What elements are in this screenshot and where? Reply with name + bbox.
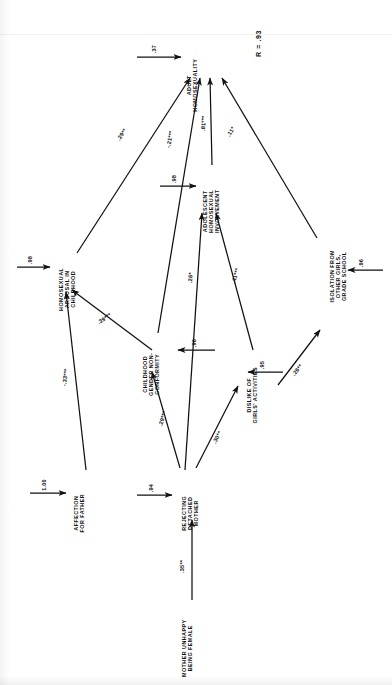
coef-label-nonconformity-to-arousal: .39*** <box>96 311 112 325</box>
coef-label-dislike-to-adolescent: .41*** <box>230 267 240 284</box>
node-affection-father[interactable]: AFFECTION FOR FATHER <box>62 470 96 556</box>
node-isolation[interactable]: ISOLATION FROM OTHER GIRLS, GRADE SCHOOL <box>316 228 360 324</box>
residual-label-adolescent-involvement: .98 <box>171 175 177 183</box>
path-dislike-to-isolation <box>278 330 320 385</box>
node-label-affection-father: AFFECTION FOR FATHER <box>73 494 85 533</box>
coef-label-father-to-arousal: -.33*** <box>61 368 69 386</box>
node-label-adolescent-involvement: ADOLESCENT HOMOSEXUAL INVOLVEMENT <box>203 189 222 232</box>
coef-label-motherunhappy-to-mother: .35** <box>179 560 185 573</box>
coef-label-mother-to-adolescent: .26* <box>187 272 194 283</box>
coef-label-dislike-to-isolation: .26** <box>291 363 304 377</box>
residual-label-affection-father: 1.00 <box>41 479 47 491</box>
node-label-adult-homosexuality: ADULT HOMOSEXUALITY <box>186 59 198 112</box>
node-label-rejecting-mother: REJECTING DETACHED MOTHER <box>181 496 200 531</box>
node-mother-unhappy[interactable]: MOTHER UNHAPPY BEING FEMALE <box>170 600 204 685</box>
node-label-homosexual-arousal: HOMOSEXUAL AROUSAL IN CHILDHOOD <box>59 267 78 310</box>
coef-label-adolescent-to-adult: .81*** <box>200 115 207 131</box>
node-rejecting-mother[interactable]: REJECTING DETACHED MOTHER <box>168 470 212 556</box>
node-label-mother-unhappy: MOTHER UNHAPPY BEING FEMALE <box>181 619 193 677</box>
residual-label-dislike-girls: .95 <box>259 361 265 369</box>
path-mother-to-dislike <box>196 386 238 468</box>
node-homosexual-arousal[interactable]: HOMOSEXUAL AROUSAL IN CHILDHOOD <box>46 243 90 335</box>
node-label-isolation: ISOLATION FROM OTHER GIRLS, GRADE SCHOOL <box>329 250 348 303</box>
node-label-gender-nonconformity: CHILDHOOD GENDER NON- CONFORMITY <box>143 352 162 395</box>
residual-label-isolation: .96 <box>358 259 364 267</box>
coef-label-mother-to-dislike: .30** <box>211 430 222 444</box>
coef-label-arousal-to-adult: .29** <box>115 127 127 141</box>
node-label-dislike-girls: DISLIKE OF GIRLS' ACTIVITIES <box>246 367 258 423</box>
residual-label-adult-homosexuality: .37 <box>151 45 157 53</box>
scan-edge-shading-left <box>0 0 10 685</box>
diagram-canvas: ADULT HOMOSEXUALITY ADOLESCENT HOMOSEXUA… <box>0 0 392 685</box>
residual-label-homosexual-arousal: .98 <box>27 256 33 264</box>
node-gender-nonconformity[interactable]: CHILDHOOD GENDER NON- CONFORMITY <box>130 330 174 418</box>
path-isolation-to-adult <box>222 78 317 238</box>
model-fit-label: R = .93 <box>255 30 262 57</box>
coef-label-nonconformity-to-adult: -.21*** <box>165 130 174 148</box>
coef-label-isolation-to-adult: .11* <box>225 125 236 137</box>
node-adolescent-involvement[interactable]: ADOLESCENT HOMOSEXUAL INVOLVEMENT <box>190 165 234 257</box>
residual-label-rejecting-mother: .94 <box>148 484 154 492</box>
residual-label-gender-nonconformity: .96 <box>191 339 197 347</box>
